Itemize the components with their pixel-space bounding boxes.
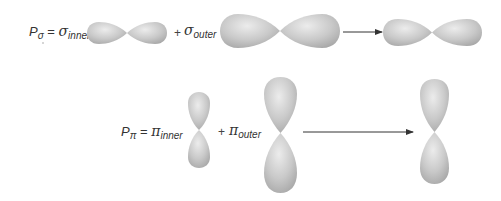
pi-outer-subscript: outer bbox=[238, 129, 261, 140]
plus-sign: + bbox=[218, 126, 225, 138]
pi-inner-orbital bbox=[187, 92, 211, 168]
equals-sign: = bbox=[140, 124, 148, 139]
p-subscript: σ bbox=[38, 30, 44, 41]
pi-outer-symbol: π bbox=[229, 122, 238, 138]
stray-dot bbox=[42, 42, 44, 44]
sigma-outer-symbol: σ bbox=[184, 22, 194, 38]
pi-result-orbital bbox=[419, 79, 450, 184]
pi-outer-label: πouter bbox=[229, 123, 261, 140]
sigma-arrow-icon bbox=[343, 27, 385, 37]
pi-outer-orbital bbox=[263, 77, 298, 193]
pi-arrow-icon bbox=[303, 127, 416, 137]
p-subscript: π bbox=[130, 130, 137, 141]
equals-sign: = bbox=[47, 24, 55, 39]
sigma-outer-orbital bbox=[220, 13, 340, 49]
sigma-result-orbital bbox=[383, 18, 482, 47]
plus-sign: + bbox=[174, 27, 181, 39]
sigma-outer-label: σouter bbox=[184, 23, 216, 40]
sigma-inner-orbital bbox=[87, 21, 167, 45]
p-symbol: P bbox=[121, 124, 130, 139]
sigma-outer-subscript: outer bbox=[194, 29, 217, 40]
p-pi-label: Pπ = πinner bbox=[121, 124, 183, 141]
p-symbol: P bbox=[29, 24, 38, 39]
sigma-inner-symbol: σ bbox=[59, 23, 69, 39]
pi-inner-subscript: inner bbox=[160, 130, 182, 141]
p-sigma-label: Pσ = σinner bbox=[29, 24, 90, 41]
